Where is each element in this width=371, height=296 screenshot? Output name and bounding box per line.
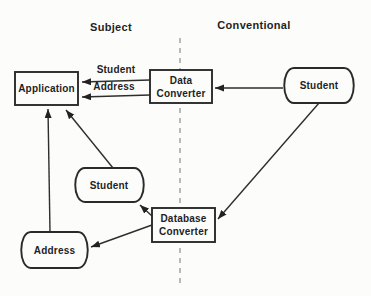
edge-databaseconverter-to-student bbox=[140, 205, 152, 216]
node-data-converter: Data Converter bbox=[150, 70, 212, 103]
edge-label-address: Address bbox=[93, 81, 135, 92]
region-label-subject: Subject bbox=[90, 21, 132, 33]
edge-label-student: Student bbox=[97, 64, 136, 75]
address-label: Address bbox=[34, 245, 76, 256]
region-label-conventional: Conventional bbox=[217, 19, 290, 31]
data-converter-label-line1: Data bbox=[170, 75, 193, 86]
student-subject-label: Student bbox=[90, 180, 129, 191]
edge-student-to-application bbox=[66, 110, 113, 168]
edge-address-to-application bbox=[48, 109, 50, 232]
node-application: Application bbox=[15, 72, 78, 105]
edge-dataconverter-to-application-address bbox=[82, 95, 150, 97]
student-conventional-label: Student bbox=[300, 80, 339, 91]
data-converter-label-line2: Converter bbox=[156, 88, 205, 99]
application-label: Application bbox=[18, 83, 75, 94]
node-student-subject: Student bbox=[75, 168, 144, 202]
database-converter-label-line1: Database bbox=[160, 213, 206, 224]
conversion-architecture-diagram: Subject Conventional Student Address App… bbox=[0, 0, 371, 296]
database-converter-label-line2: Converter bbox=[159, 226, 208, 237]
edge-databaseconverter-to-address bbox=[91, 225, 152, 247]
node-student-conventional: Student bbox=[284, 68, 354, 103]
node-database-converter: Database Converter bbox=[152, 208, 215, 242]
node-address: Address bbox=[21, 232, 88, 268]
diagram-canvas: Subject Conventional Student Address App… bbox=[0, 0, 371, 296]
edge-student-to-databaseconverter bbox=[218, 103, 319, 219]
